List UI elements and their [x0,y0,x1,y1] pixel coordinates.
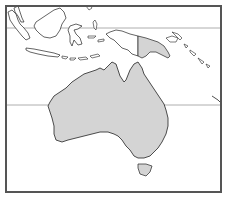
new-britain [166,36,178,42]
borneo [34,8,66,38]
papua-new-guinea [138,36,170,58]
west-new-guinea [106,30,138,56]
philippines [86,5,92,10]
australia [48,62,168,158]
java [26,48,60,57]
sulawesi [68,24,82,46]
moluccas [88,20,104,42]
solomon-islands [184,44,210,68]
lesser-sunda-islands [62,54,100,60]
map-frame [5,5,222,193]
new-zealand [212,96,222,104]
map-canvas [5,5,222,193]
tasmania [138,164,152,176]
